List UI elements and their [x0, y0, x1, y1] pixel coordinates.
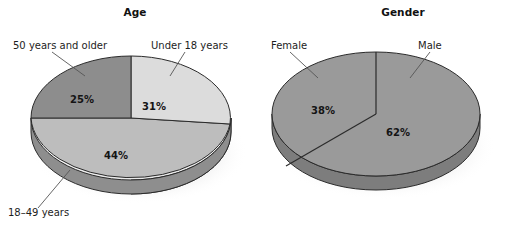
- value-label-50-and-older: 25%: [70, 94, 94, 105]
- value-label-male: 62%: [386, 127, 410, 138]
- age-pie-graphic: [0, 0, 254, 234]
- callout-male: Male: [418, 40, 442, 52]
- slice-50-and-older: [31, 56, 131, 118]
- slice-under-18: [131, 56, 230, 124]
- chart-panel-age: Age: [0, 0, 254, 234]
- value-label-female: 38%: [311, 105, 335, 116]
- callout-18-49-years: 18–49 years: [8, 207, 69, 219]
- value-label-under-18: 31%: [142, 101, 166, 112]
- value-label-18-49: 44%: [104, 150, 128, 161]
- chart-panel-gender: Gender Female: [254, 0, 508, 234]
- callout-50-years-and-older: 50 years and older: [13, 40, 107, 52]
- callout-under-18-years: Under 18 years: [151, 40, 228, 52]
- pie-chart-figure: Age: [0, 0, 508, 234]
- gender-pie-graphic: [254, 0, 508, 234]
- callout-female: Female: [271, 40, 307, 52]
